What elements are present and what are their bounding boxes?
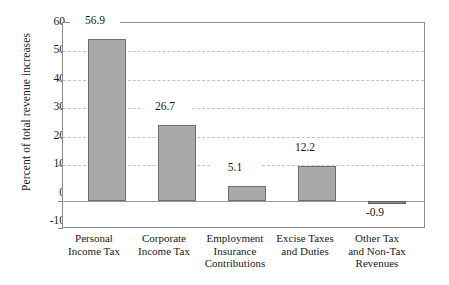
value-label-other-tax-and-non-tax-revenues: -0.9 bbox=[350, 206, 400, 218]
cat-label-other-tax-and-non-tax-revenues: Other Tax and Non-Tax Revenues bbox=[336, 232, 418, 270]
cat-label-corporate-income-tax: Corporate Income Tax bbox=[127, 232, 201, 257]
cat-line: Income Tax bbox=[127, 245, 201, 258]
cat-line: Corporate bbox=[127, 232, 201, 245]
bar-other-tax-and-non-tax-revenues[interactable] bbox=[368, 201, 406, 205]
value-label-employment-insurance-contributions: 5.1 bbox=[210, 161, 260, 173]
cat-line: Personal bbox=[57, 232, 131, 245]
tickmark-neg10 bbox=[58, 228, 63, 229]
y-tick-60: 60 bbox=[31, 16, 65, 27]
y-tick-20: 20 bbox=[31, 130, 65, 141]
y-axis-title: Percent of total revenue increases bbox=[20, 12, 32, 212]
y-tick-10: 10 bbox=[31, 158, 65, 169]
value-label-personal-income-tax: 56.9 bbox=[70, 14, 120, 26]
tickmark-0 bbox=[58, 201, 63, 202]
cat-line: Excise Taxes bbox=[264, 232, 346, 245]
tickmark-40 bbox=[58, 80, 63, 81]
cat-line: Income Tax bbox=[57, 245, 131, 258]
plot-area bbox=[62, 22, 425, 228]
tickmark-30 bbox=[58, 108, 63, 109]
bar-excise-taxes-and-duties[interactable] bbox=[298, 166, 336, 201]
cat-line: Other Tax bbox=[336, 232, 418, 245]
cat-line: and Duties bbox=[264, 245, 346, 258]
value-label-excise-taxes-and-duties: 12.2 bbox=[280, 141, 330, 153]
bar-employment-insurance-contributions[interactable] bbox=[228, 186, 266, 201]
y-tick-30: 30 bbox=[31, 101, 65, 112]
bar-corporate-income-tax[interactable] bbox=[158, 125, 196, 201]
cat-label-excise-taxes-and-duties: Excise Taxes and Duties bbox=[264, 232, 346, 257]
tickmark-60 bbox=[58, 23, 63, 24]
tickmark-20 bbox=[58, 137, 63, 138]
y-tick-50: 50 bbox=[31, 44, 65, 55]
tickmark-50 bbox=[58, 51, 63, 52]
cat-label-personal-income-tax: Personal Income Tax bbox=[57, 232, 131, 257]
y-tick-40: 40 bbox=[31, 73, 65, 84]
value-label-corporate-income-tax: 26.7 bbox=[140, 100, 190, 112]
cat-line: Contributions bbox=[193, 257, 277, 270]
tickmark-10 bbox=[58, 165, 63, 166]
y-tick-neg10: -10 bbox=[31, 215, 65, 226]
cat-line: Revenues bbox=[336, 257, 418, 270]
cat-line: and Non-Tax bbox=[336, 245, 418, 258]
bar-chart: Percent of total revenue increases 60 50… bbox=[0, 0, 449, 285]
bar-personal-income-tax[interactable] bbox=[88, 39, 126, 201]
y-tick-0: 0 bbox=[31, 187, 65, 198]
